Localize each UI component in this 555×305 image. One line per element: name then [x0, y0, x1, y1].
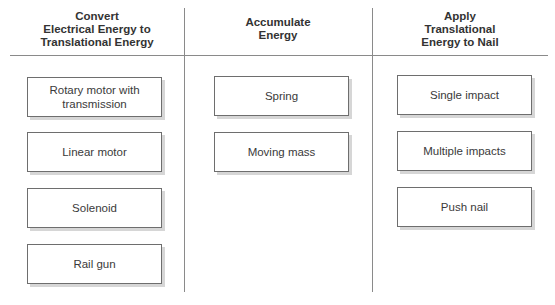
column-header-convert-energy: Convert Electrical Energy to Translation…: [10, 6, 184, 52]
header-line: Convert: [40, 10, 153, 23]
option-box-spring: Spring: [214, 76, 349, 116]
column-divider-1: [184, 8, 185, 292]
option-box-linear-motor: Linear motor: [27, 132, 162, 172]
header-line: Energy to Nail: [421, 36, 498, 49]
header-line: Accumulate: [245, 16, 310, 29]
header-line: Energy: [245, 29, 310, 42]
header-line: Translational: [421, 23, 498, 36]
option-box-moving-mass: Moving mass: [214, 132, 349, 172]
option-box-solenoid: Solenoid: [27, 188, 162, 228]
header-line: Electrical Energy to: [40, 23, 153, 36]
header-line: Apply: [421, 10, 498, 23]
column-header-apply-energy: Apply Translational Energy to Nail: [372, 6, 548, 52]
column-header-accumulate-energy: Accumulate Energy: [184, 6, 372, 52]
option-box-multiple-impacts: Multiple impacts: [397, 131, 532, 171]
column-divider-2: [372, 8, 373, 292]
option-box-push-nail: Push nail: [397, 187, 532, 227]
option-box-single-impact: Single impact: [397, 75, 532, 115]
option-box-rotary-motor: Rotary motor with transmission: [27, 77, 162, 117]
option-box-rail-gun: Rail gun: [27, 244, 162, 284]
header-line: Translational Energy: [40, 36, 153, 49]
header-divider: [10, 55, 548, 56]
